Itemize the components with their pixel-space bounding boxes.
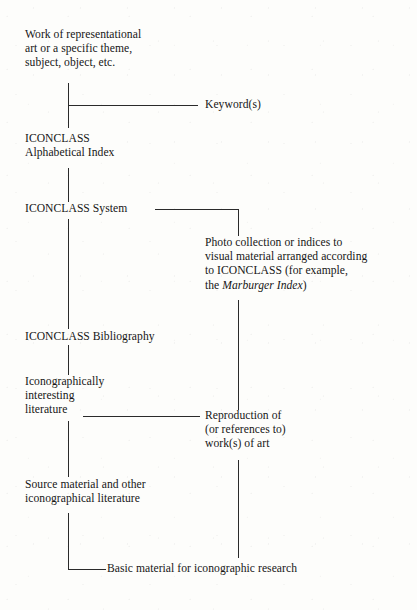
- connector-system-to-bibliography: [68, 219, 69, 329]
- node-source-material: Source material and other iconographical…: [25, 478, 225, 506]
- connector-source-to-basic-vertical: [68, 513, 69, 570]
- node-reproduction-of-work: Reproduction of (or references to) work(…: [205, 409, 365, 452]
- photo-collection-line-1: Photo collection or indices to: [205, 236, 342, 249]
- photo-collection-line-4-suffix: ): [303, 279, 307, 292]
- connector-index-to-system: [68, 168, 69, 202]
- node-basic-material: Basic material for iconographic research: [107, 562, 407, 576]
- photo-collection-marburger-index-title: Marburger Index: [222, 279, 303, 292]
- photo-collection-line-3: to ICONCLASS (for example,: [205, 264, 348, 277]
- connector-bibliography-to-literature: [68, 345, 69, 375]
- connector-photo-to-reproduction: [238, 300, 239, 410]
- node-work-of-art: Work of representational art or a specif…: [25, 28, 235, 71]
- node-iconclass-bibliography: ICONCLASS Bibliography: [25, 330, 225, 344]
- connector-source-to-basic-horizontal: [68, 569, 106, 570]
- connector-literature-to-source: [68, 421, 69, 477]
- connector-system-to-photo-vertical: [238, 209, 239, 236]
- iconclass-flow-diagram: Work of representational art or a specif…: [0, 0, 417, 610]
- connector-system-to-photo-horizontal: [155, 209, 239, 210]
- node-alphabetical-index: ICONCLASS Alphabetical Index: [25, 132, 225, 160]
- node-photo-collection: Photo collection or indices tovisual mat…: [205, 236, 417, 293]
- connector-branch-to-keywords: [68, 105, 198, 106]
- connector-reproduction-to-basic: [238, 460, 239, 558]
- photo-collection-line-4-prefix: the: [205, 279, 222, 292]
- node-keywords: Keyword(s): [205, 98, 325, 112]
- photo-collection-line-2: visual material arranged according: [205, 250, 367, 263]
- node-iconographic-literature: Iconographically interesting literature: [25, 375, 135, 418]
- connector-literature-to-reproduction: [83, 416, 200, 417]
- paper-grain-texture: [0, 0, 417, 610]
